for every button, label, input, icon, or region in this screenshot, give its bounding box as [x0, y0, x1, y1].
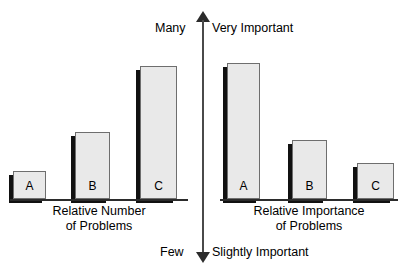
- bar-label-right-a: A: [228, 180, 259, 192]
- caption-left-line2: of Problems: [10, 219, 188, 234]
- bar-left-b: B: [75, 132, 110, 199]
- bar-label-left-c: C: [141, 180, 176, 192]
- panel-relative-number: A B C Relative Number of Problems: [0, 0, 198, 275]
- caption-left-line1: Relative Number: [10, 204, 188, 219]
- bar-label-right-c: C: [358, 180, 393, 192]
- bar-right-b: B: [292, 140, 327, 199]
- bar-label-left-a: A: [14, 180, 45, 192]
- bar-left-a: A: [13, 171, 46, 199]
- bar-left-c: C: [140, 66, 177, 199]
- bar-label-right-b: B: [293, 180, 326, 192]
- caption-right-line2: of Problems: [220, 219, 398, 234]
- plot-area-left: A B C: [0, 0, 198, 199]
- bar-right-a: A: [227, 63, 260, 199]
- baseline-right: [220, 199, 398, 201]
- bar-label-left-b: B: [76, 180, 109, 192]
- central-axis-line: [202, 20, 204, 256]
- caption-right: Relative Importance of Problems: [220, 204, 398, 234]
- bar-right-c: C: [357, 163, 394, 199]
- caption-left: Relative Number of Problems: [10, 204, 188, 234]
- panel-relative-importance: A B C Relative Importance of Problems: [207, 0, 405, 275]
- figure-root: Many Very Important Few Slightly Importa…: [0, 0, 405, 275]
- baseline-left: [10, 199, 188, 201]
- plot-area-right: A B C: [207, 0, 405, 199]
- caption-right-line1: Relative Importance: [220, 204, 398, 219]
